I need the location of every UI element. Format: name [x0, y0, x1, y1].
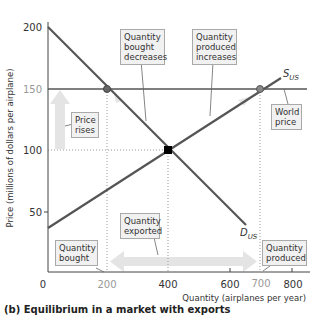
label-line: increases [196, 52, 233, 62]
label-line: decreases [124, 52, 161, 62]
demand-label: DUS [240, 227, 258, 241]
label-line: price [275, 117, 298, 127]
label-line: bought [59, 253, 94, 263]
label-line: rises [75, 125, 95, 135]
label-quantity-exported: Quantity exported [120, 213, 160, 239]
point-quantity-produced [257, 86, 264, 93]
quantity-exported-arrow [110, 251, 257, 272]
x-tick-0: 0 [40, 279, 46, 290]
label-line: Quantity [196, 32, 233, 42]
label-quantity-bought: Quantity bought [55, 240, 98, 266]
label-line: exported [124, 226, 156, 236]
y-axis-title: Price (millions of dollars per airplane) [5, 68, 15, 227]
label-quantity-produced-increases: Quantity produced increases [192, 29, 237, 65]
y-tick-100: 100 [23, 145, 42, 156]
label-line: bought [124, 42, 161, 52]
x-tick-700: 700 [251, 278, 270, 289]
label-line: World [275, 107, 298, 117]
price-rises-arrow [50, 90, 70, 149]
y-tick-200: 200 [23, 22, 42, 33]
x-tick-200: 200 [97, 279, 116, 290]
supply-label: SUS [283, 68, 299, 82]
x-tick-600: 600 [220, 279, 239, 290]
y-tick-50: 50 [29, 207, 42, 218]
label-line: produced [196, 42, 233, 52]
x-axis-title: Quantity (airplanes per year) [182, 293, 306, 303]
label-line: produced [266, 253, 303, 263]
label-price-rises: Price rises [71, 112, 99, 138]
y-tick-150: 150 [23, 84, 42, 95]
label-line: Quantity [124, 216, 156, 226]
label-quantity-bought-decreases: Quantity bought decreases [120, 29, 165, 65]
label-line: Quantity [266, 243, 303, 253]
figure-caption: (b) Equilibrium in a market with exports [4, 304, 230, 315]
label-world-price: World price [271, 104, 302, 130]
point-equilibrium [164, 146, 172, 154]
label-quantity-produced: Quantity produced [262, 240, 307, 266]
point-quantity-bought [104, 86, 111, 93]
x-tick-400: 400 [158, 279, 177, 290]
label-line: Price [75, 115, 95, 125]
label-line: Quantity [124, 32, 161, 42]
axes [44, 22, 310, 272]
x-tick-800: 800 [283, 279, 302, 290]
label-line: Quantity [59, 243, 94, 253]
